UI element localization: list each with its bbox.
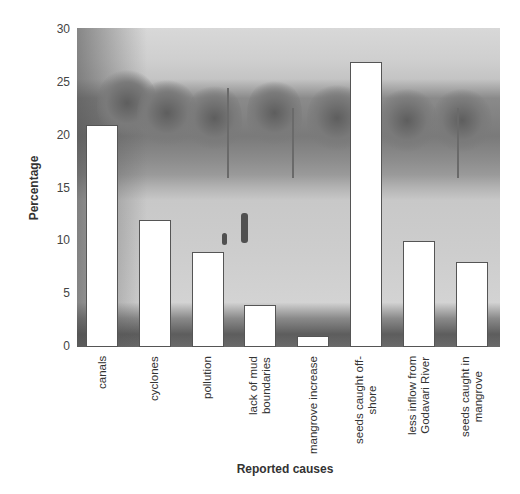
y-tick-label: 20 — [38, 128, 70, 142]
palm-tree — [187, 83, 242, 153]
bar-canals — [86, 125, 118, 347]
y-tick-label: 0 — [38, 339, 70, 353]
bar-lack-of-mud-boundaries — [244, 305, 276, 347]
bar-pollution — [192, 252, 224, 347]
y-tick-label: 25 — [38, 75, 70, 89]
x-tick-label: mangrove increase — [307, 356, 320, 454]
bar-seeds-caught-in-mangrove — [456, 262, 488, 347]
x-tick-label: cyclones — [148, 356, 161, 401]
y-tick-label: 10 — [38, 233, 70, 247]
bar-chart: 051015202530 Percentage canalscyclonespo… — [0, 0, 520, 494]
child-figure — [222, 233, 227, 245]
y-tick-label: 15 — [38, 181, 70, 195]
x-axis-title: Reported causes — [0, 462, 520, 476]
y-axis-title: Percentage — [27, 156, 41, 221]
y-tick-label: 5 — [38, 286, 70, 300]
palm-trunk — [292, 108, 294, 178]
y-tick-label: 30 — [38, 22, 70, 36]
palm-trunk — [227, 88, 229, 178]
person-figure — [241, 213, 248, 243]
x-tick-label: lack of mud boundaries — [247, 356, 273, 415]
x-tick-label: less inflow from Godavari River — [406, 356, 432, 435]
bar-cyclones — [139, 220, 171, 347]
palm-tree — [377, 88, 437, 153]
x-tick-label: seeds caught in mangrove — [459, 356, 485, 437]
palm-tree — [432, 88, 492, 153]
x-tick-label: seeds caught off- shore — [353, 356, 379, 444]
bar-less-inflow-from-godavari-river — [403, 241, 435, 347]
palm-trunk — [457, 108, 459, 178]
x-tick-label: canals — [96, 356, 109, 389]
x-tick-label: pollution — [201, 356, 214, 399]
bar-seeds-caught-off-shore — [350, 62, 382, 347]
bar-mangrove-increase — [297, 336, 329, 347]
